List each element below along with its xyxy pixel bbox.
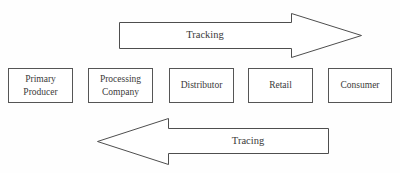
tracking-arrow-label: Tracking [119, 29, 291, 41]
stage-box-retail: Retail [248, 68, 313, 103]
stage-label-line-1: Distributor [181, 79, 223, 92]
stage-label-line-1: Processing [100, 73, 141, 86]
diagram-canvas: Tracking Tracing Primary Producer Proces… [0, 0, 400, 173]
stage-label-line-1: Consumer [340, 79, 379, 92]
stage-box-processing-company: Processing Company [88, 68, 153, 103]
stage-label-line-1: Retail [269, 79, 292, 92]
stage-box-distributor: Distributor [169, 68, 234, 103]
stage-box-primary-producer: Primary Producer [8, 68, 73, 103]
stage-box-consumer: Consumer [328, 68, 392, 103]
stage-label-line-2: Producer [23, 86, 57, 99]
stage-label-line-2: Company [102, 86, 139, 99]
tracing-arrow-label: Tracing [168, 135, 328, 147]
stage-label-line-1: Primary [25, 73, 56, 86]
